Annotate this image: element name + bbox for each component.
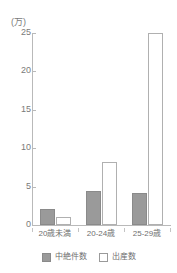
bar-birth [102, 162, 117, 225]
y-axis-tick-label: 0 [26, 219, 31, 230]
bar-birth [148, 33, 163, 225]
legend-swatch-icon [99, 253, 108, 262]
x-axis-tick-mark [78, 228, 79, 232]
x-axis-tick-mark [170, 228, 171, 232]
x-axis-labels: 20歳未満20-24歳25-29歳 [32, 228, 171, 244]
y-axis-unit-label: (万) [11, 17, 26, 27]
y-axis-tick-label: 10 [21, 142, 31, 153]
bar-chart: (万) 0510152025 20歳未満20-24歳25-29歳 中絶件数出産数 [0, 0, 177, 273]
legend-item: 中絶件数 [42, 252, 87, 262]
bar-group [78, 33, 124, 225]
plot-area [32, 33, 170, 225]
x-axis-tick-mark [32, 228, 33, 232]
bar-abortion [40, 209, 55, 225]
y-axis-tick-label: 15 [21, 104, 31, 115]
legend-swatch-icon [42, 253, 51, 262]
bar-abortion [86, 191, 101, 225]
x-axis-tick-mark [124, 228, 125, 232]
y-axis-tick: 0 [0, 225, 177, 226]
legend-item: 出産数 [99, 252, 136, 262]
bar-group [32, 33, 78, 225]
bar-group [124, 33, 170, 225]
bar-birth [56, 217, 71, 225]
bar-abortion [132, 193, 147, 225]
x-axis-category-label: 20-24歳 [87, 228, 115, 240]
chart-legend: 中絶件数出産数 [0, 252, 177, 262]
legend-label: 中絶件数 [55, 252, 87, 262]
y-axis-tick-label: 5 [26, 181, 31, 192]
x-axis-category-label: 25-29歳 [133, 228, 161, 240]
y-axis-tick-mark [32, 225, 36, 226]
legend-label: 出産数 [112, 252, 136, 262]
y-axis-tick-label: 25 [21, 27, 31, 38]
y-axis-tick-label: 20 [21, 65, 31, 76]
x-axis-category-label: 20歳未満 [39, 228, 72, 240]
